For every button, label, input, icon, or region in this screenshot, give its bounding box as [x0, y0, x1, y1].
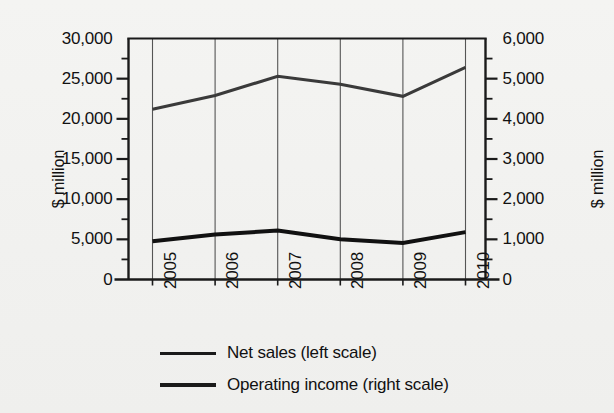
x-category-label-2005: 2005: [161, 251, 181, 288]
legend-item-operating-income: Operating income (right scale): [160, 375, 449, 395]
legend-label-net-sales: Net sales (left scale): [227, 343, 377, 363]
left-tick-label-5000: 5,000: [71, 229, 113, 249]
legend-swatch-net-sales: [160, 352, 216, 355]
x-category-label-2009: 2009: [411, 251, 431, 288]
right-tick-label-6000: 6,000: [503, 29, 545, 49]
legend-swatch-operating-income: [160, 383, 216, 387]
right-tick-label-3000: 3,000: [503, 149, 545, 169]
left-axis-title: $ million: [50, 134, 68, 224]
gridlines-group: [153, 39, 466, 280]
legend-label-operating-income: Operating income (right scale): [227, 375, 449, 395]
left-tick-label-20000: 20,000: [62, 109, 113, 129]
legend-item-net-sales: Net sales (left scale): [160, 343, 377, 363]
left-tick-label-0: 0: [103, 270, 112, 290]
left-tick-label-10000: 10,000: [62, 189, 113, 209]
series-line-net-sales: [153, 67, 466, 109]
left-tick-label-15000: 15,000: [62, 149, 113, 169]
chart-page: 05,00010,00015,00020,00025,00030,000 01,…: [0, 0, 614, 413]
x-category-label-2006: 2006: [223, 251, 243, 288]
right-tick-label-1000: 1,000: [503, 229, 545, 249]
line-chart: 05,00010,00015,00020,00025,00030,000 01,…: [0, 0, 614, 413]
right-tick-label-2000: 2,000: [503, 189, 545, 209]
right-tick-label-0: 0: [503, 270, 512, 290]
left-tick-label-30000: 30,000: [62, 29, 113, 49]
plot-frame: [115, 39, 500, 280]
right-axis-title: $ million: [589, 134, 607, 224]
x-category-label-2008: 2008: [348, 251, 368, 288]
left-tick-label-25000: 25,000: [62, 69, 113, 89]
right-tick-label-5000: 5,000: [503, 69, 545, 89]
x-category-label-2010: 2010: [474, 251, 494, 288]
series-line-operating-income: [153, 231, 466, 243]
right-tick-label-4000: 4,000: [503, 109, 545, 129]
x-category-label-2007: 2007: [286, 251, 306, 288]
data-series-group: [153, 67, 466, 243]
